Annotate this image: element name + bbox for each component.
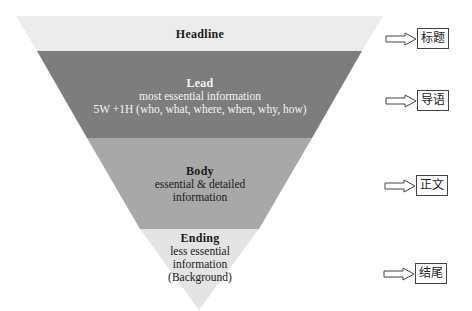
body-line-2: information <box>100 191 300 204</box>
headline-title: Headline <box>100 28 300 41</box>
lead-title: Lead <box>60 77 340 90</box>
lead-line-1: most essential information <box>60 90 340 103</box>
ending-line-2: information <box>125 258 275 271</box>
label-body: 正文 <box>384 175 448 196</box>
body-section: Body essential & detailed information <box>100 165 300 204</box>
zh-label-body: 正文 <box>416 175 448 196</box>
lead-line-2: 5W +1H (who, what, where, when, why, how… <box>60 103 340 116</box>
zh-label-lead: 导语 <box>417 90 449 111</box>
arrow-right-icon <box>385 94 417 108</box>
label-ending: 结尾 <box>383 263 447 284</box>
ending-line-1: less essential <box>125 245 275 258</box>
label-lead: 导语 <box>385 90 449 111</box>
body-title: Body <box>100 165 300 178</box>
arrow-right-icon <box>384 179 416 193</box>
arrow-right-icon <box>383 267 415 281</box>
arrow-right-icon <box>385 32 417 46</box>
headline-section: Headline <box>100 28 300 41</box>
ending-section: Ending less essential information (Backg… <box>125 232 275 284</box>
label-headline: 标题 <box>385 28 449 49</box>
zh-label-headline: 标题 <box>417 28 449 49</box>
lead-section: Lead most essential information 5W +1H (… <box>60 77 340 116</box>
body-line-1: essential & detailed <box>100 178 300 191</box>
ending-title: Ending <box>125 232 275 245</box>
ending-line-3: (Background) <box>125 271 275 284</box>
zh-label-ending: 结尾 <box>415 263 447 284</box>
